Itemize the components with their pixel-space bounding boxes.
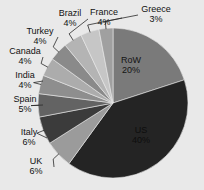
pie-slice-label: UK — [30, 156, 43, 166]
pie-slice-label: Turkey — [26, 26, 54, 36]
pie-slice-label: Brazil — [59, 8, 82, 18]
pie-slice-value: 6% — [22, 137, 35, 147]
pie-slice-value: 40% — [132, 135, 150, 145]
pie-slice-value: 4% — [33, 36, 46, 46]
pie-slice-value: 5% — [18, 104, 31, 114]
pie-chart-canvas: RoW20%US40%UK6%Italy6%Spain5%India4%Cana… — [0, 0, 204, 190]
pie-slice-group — [38, 28, 188, 178]
pie-slice-value: 4% — [18, 56, 31, 66]
pie-chart: RoW20%US40%UK6%Italy6%Spain5%India4%Cana… — [0, 0, 204, 190]
pie-slice-label: Greece — [141, 4, 171, 14]
pie-slice-label: Spain — [13, 94, 36, 104]
pie-slice-label: India — [15, 70, 35, 80]
pie-slice-label: France — [90, 7, 118, 17]
pie-slice-label: US — [135, 125, 148, 135]
pie-slice-value: 20% — [122, 65, 140, 75]
pie-slice-label: RoW — [121, 55, 142, 65]
pie-slice-value: 4% — [63, 18, 76, 28]
pie-slice-value: 3% — [149, 14, 162, 24]
pie-slice-label: Italy — [21, 127, 38, 137]
pie-slice-label: Canada — [9, 46, 41, 56]
pie-slice-value: 4% — [18, 80, 31, 90]
pie-slice-value: 4% — [97, 17, 110, 27]
pie-slice-value: 6% — [29, 166, 42, 176]
